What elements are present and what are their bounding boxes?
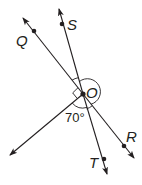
point-q: [32, 29, 37, 34]
label-r: R: [126, 128, 137, 145]
angle-arc-q-s: [72, 78, 78, 81]
label-o: O: [86, 84, 98, 101]
label-t: T: [89, 154, 100, 171]
angle-arc-70: [72, 103, 87, 108]
center-point-o: [80, 91, 85, 96]
right-angle-mark: [73, 88, 78, 99]
label-s: S: [67, 16, 77, 33]
label-q: Q: [16, 32, 28, 49]
geometry-diagram: Q S R T O 70°: [0, 0, 142, 185]
point-s: [60, 22, 65, 27]
point-t: [102, 157, 107, 162]
angle-label-70: 70°: [65, 110, 85, 125]
ray-o-r: [83, 94, 134, 158]
